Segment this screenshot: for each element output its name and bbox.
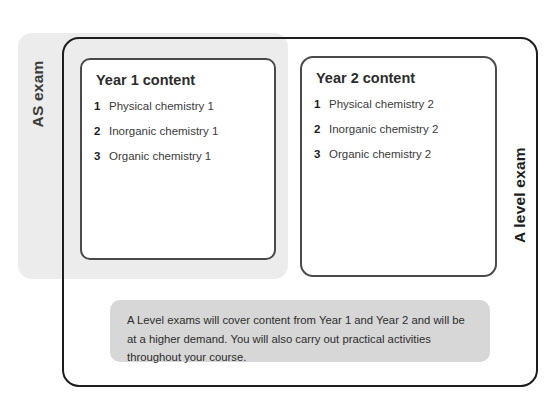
as-exam-label: AS exam (29, 48, 47, 140)
list-item-number: 1 (314, 98, 325, 110)
list-item: 2 Inorganic chemistry 2 (314, 123, 487, 135)
list-item-number: 2 (94, 125, 105, 137)
list-item-label: Inorganic chemistry 2 (329, 123, 438, 135)
list-item-label: Inorganic chemistry 1 (109, 125, 218, 137)
list-item-number: 3 (314, 148, 325, 160)
year-2-panel-title: Year 2 content (316, 70, 415, 86)
list-item-label: Physical chemistry 1 (109, 100, 214, 112)
year-2-topic-list: 1 Physical chemistry 2 2 Inorganic chemi… (314, 98, 487, 173)
qualification-structure-diagram: AS exam A level exam Year 1 content 1 Ph… (0, 0, 560, 414)
a-level-exam-label: A level exam (511, 151, 529, 243)
list-item-label: Organic chemistry 1 (109, 150, 211, 162)
list-item: 3 Organic chemistry 2 (314, 148, 487, 160)
list-item-label: Organic chemistry 2 (329, 148, 431, 160)
list-item: 2 Inorganic chemistry 1 (94, 125, 266, 137)
a-level-note-box: A Level exams will cover content from Ye… (110, 300, 490, 362)
year-1-content-panel: Year 1 content 1 Physical chemistry 1 2 … (80, 58, 276, 260)
list-item-number: 2 (314, 123, 325, 135)
list-item-label: Physical chemistry 2 (329, 98, 434, 110)
year-1-topic-list: 1 Physical chemistry 1 2 Inorganic chemi… (94, 100, 266, 175)
list-item-number: 3 (94, 150, 105, 162)
year-1-panel-title: Year 1 content (96, 72, 195, 88)
list-item: 3 Organic chemistry 1 (94, 150, 266, 162)
a-level-note-text: A Level exams will cover content from Ye… (127, 311, 473, 367)
list-item-number: 1 (94, 100, 105, 112)
list-item: 1 Physical chemistry 1 (94, 100, 266, 112)
year-2-content-panel: Year 2 content 1 Physical chemistry 2 2 … (300, 56, 497, 277)
list-item: 1 Physical chemistry 2 (314, 98, 487, 110)
